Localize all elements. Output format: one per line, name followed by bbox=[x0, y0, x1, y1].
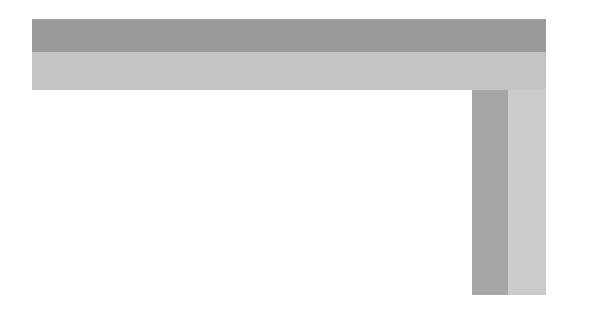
column-block-1 bbox=[472, 90, 508, 295]
deck-top-band bbox=[32, 19, 546, 54]
deck-lower-band bbox=[32, 52, 546, 90]
column-block-2 bbox=[508, 90, 546, 295]
